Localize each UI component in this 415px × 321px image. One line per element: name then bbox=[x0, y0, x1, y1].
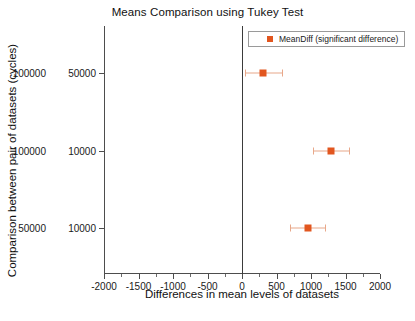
mean-diff-marker bbox=[328, 147, 335, 154]
plot-area: -2000-1500-1000-5000500100015002000 1000… bbox=[104, 26, 380, 274]
y-axis-tick bbox=[99, 151, 104, 152]
confidence-interval-cap bbox=[245, 69, 246, 76]
mean-diff-marker bbox=[259, 69, 266, 76]
tukey-means-comparison-chart: Means Comparison using Tukey Test -2000-… bbox=[0, 0, 415, 321]
x-axis-minor-tick bbox=[328, 274, 329, 277]
y-axis-title: Comparison between pair of datasets (cyc… bbox=[4, 0, 20, 321]
x-axis-minor-tick bbox=[121, 274, 122, 277]
x-axis-tick bbox=[311, 274, 312, 279]
confidence-interval-cap bbox=[290, 225, 291, 232]
x-axis-tick bbox=[242, 274, 243, 279]
x-axis-minor-tick bbox=[294, 274, 295, 277]
confidence-interval-cap bbox=[313, 147, 314, 154]
legend-meandiff-swatch-icon bbox=[267, 36, 273, 42]
x-axis-tick bbox=[104, 274, 105, 279]
x-axis-minor-tick bbox=[363, 274, 364, 277]
confidence-interval-cap bbox=[349, 147, 350, 154]
y-axis-spine bbox=[104, 26, 105, 274]
chart-legend: MeanDiff (significant difference) bbox=[248, 31, 405, 47]
zero-reference-line bbox=[242, 26, 243, 274]
chart-title: Means Comparison using Tukey Test bbox=[0, 6, 415, 18]
legend-meandiff-label: MeanDiff (significant difference) bbox=[279, 34, 398, 44]
y-axis-tick bbox=[99, 228, 104, 229]
x-axis-tick bbox=[208, 274, 209, 279]
mean-diff-marker bbox=[304, 225, 311, 232]
x-axis-title: Differences in mean levels of datasets bbox=[104, 288, 380, 300]
x-axis-minor-tick bbox=[190, 274, 191, 277]
x-axis-tick bbox=[173, 274, 174, 279]
x-axis-tick bbox=[346, 274, 347, 279]
x-axis-tick bbox=[277, 274, 278, 279]
x-axis-tick bbox=[139, 274, 140, 279]
y-axis-tick bbox=[99, 73, 104, 74]
x-axis-tick bbox=[380, 274, 381, 279]
confidence-interval-cap bbox=[325, 225, 326, 232]
x-axis-minor-tick bbox=[259, 274, 260, 277]
confidence-interval-cap bbox=[282, 69, 283, 76]
x-axis-minor-tick bbox=[225, 274, 226, 277]
x-axis-minor-tick bbox=[156, 274, 157, 277]
